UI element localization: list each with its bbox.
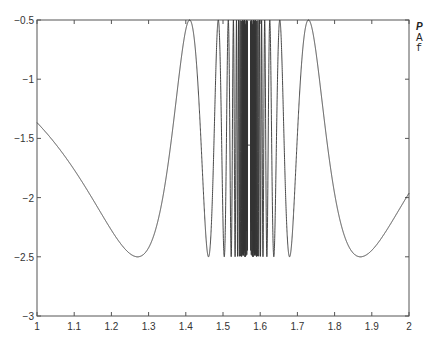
svg-text:1.2: 1.2 [104, 321, 118, 332]
svg-text:1.8: 1.8 [328, 321, 342, 332]
svg-text:1.1: 1.1 [67, 321, 81, 332]
svg-text:1.5: 1.5 [216, 321, 230, 332]
side-label-2: A [416, 32, 423, 43]
svg-text:−2: −2 [23, 193, 35, 204]
svg-text:−1: −1 [23, 74, 35, 85]
line-chart: 11.11.21.31.41.51.61.71.81.92 −3−2.5−2−1… [0, 0, 432, 343]
svg-text:−0.5: −0.5 [14, 15, 34, 26]
plot-area [37, 20, 409, 316]
svg-text:1.9: 1.9 [365, 321, 379, 332]
svg-text:−2.5: −2.5 [14, 252, 34, 263]
svg-text:1.3: 1.3 [142, 321, 156, 332]
svg-text:1.4: 1.4 [179, 321, 193, 332]
svg-text:2: 2 [406, 321, 412, 332]
svg-text:1.7: 1.7 [290, 321, 304, 332]
svg-text:−1.5: −1.5 [14, 133, 34, 144]
svg-text:1: 1 [34, 321, 40, 332]
side-label-bold: P [416, 21, 423, 32]
y-axis-tick-labels: −3−2.5−2−1.5−1−0.5 [14, 15, 34, 322]
x-axis-tick-labels: 11.11.21.31.41.51.61.71.81.92 [34, 321, 412, 332]
svg-text:−3: −3 [23, 311, 35, 322]
side-label-3: f [416, 43, 422, 54]
svg-text:1.6: 1.6 [253, 321, 267, 332]
